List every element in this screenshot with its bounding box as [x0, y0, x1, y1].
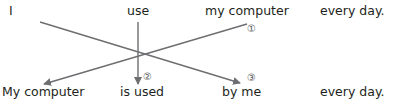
passive-verb: is used	[120, 85, 164, 99]
step-marker-3: ③	[247, 73, 256, 83]
passive-adverbial: every day.	[320, 85, 384, 99]
step-marker-2: ②	[143, 72, 152, 82]
arrow-subject-to-agent	[40, 22, 240, 83]
passive-agent: by me	[222, 85, 261, 99]
passive-subject: My computer	[2, 85, 84, 99]
step-marker-1: ①	[247, 24, 256, 34]
